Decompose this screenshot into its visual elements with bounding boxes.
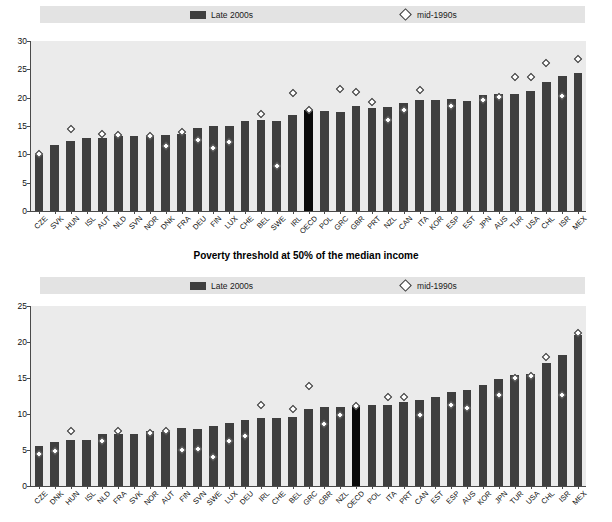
- y-axis-tick-label: 15: [18, 121, 27, 131]
- mid-1990s-diamond-marker-icon: [399, 8, 412, 21]
- bar-deu: [241, 420, 250, 486]
- x-axis-label-nld: NLD: [112, 214, 129, 231]
- x-axis-label-esp: ESP: [445, 214, 462, 231]
- bar-grc: [336, 112, 345, 211]
- x-axis-tick-mark: [372, 486, 373, 489]
- x-axis-label-nor: NOR: [142, 489, 160, 507]
- bar-can: [399, 103, 408, 211]
- mid-1990s-marker-usa: [526, 72, 534, 80]
- x-axis-label-svk: SVK: [48, 214, 65, 231]
- bar-irl: [257, 418, 266, 486]
- bar-isr: [558, 355, 567, 486]
- bar-pol: [368, 405, 377, 486]
- x-axis-label-gbr: GBR: [317, 489, 335, 507]
- y-axis-tick-mark: [27, 306, 31, 307]
- mid-1990s-marker-prt: [399, 392, 407, 400]
- x-axis-tick-mark: [324, 486, 325, 489]
- bar-chl: [542, 82, 551, 211]
- x-axis-tick-mark: [309, 486, 310, 489]
- y-axis-tick-mark: [27, 183, 31, 184]
- y-axis-tick-label: 20: [18, 337, 27, 347]
- x-axis-label-jpn: JPN: [477, 214, 493, 230]
- bar-fra: [177, 134, 186, 211]
- x-axis-tick-mark: [293, 211, 294, 214]
- mid-1990s-marker-mex: [574, 54, 582, 62]
- y-axis-tick-mark: [27, 342, 31, 343]
- x-axis-tick-mark: [102, 211, 103, 214]
- bar-che: [241, 121, 250, 211]
- y-axis-tick-mark: [27, 450, 31, 451]
- x-axis-tick-mark: [150, 211, 151, 214]
- mid-1990s-marker-ita: [384, 393, 392, 401]
- legend-entry-mid-1990s: mid-1990s: [401, 281, 457, 291]
- bar-hun: [66, 440, 75, 486]
- bar-isl: [82, 138, 91, 211]
- y-axis-tick-label: 30: [18, 36, 27, 46]
- bar-bel: [288, 417, 297, 486]
- x-axis-label-nzl: NZL: [382, 214, 398, 230]
- x-axis-tick-mark: [531, 211, 532, 214]
- legend-label-late-2000s: Late 2000s: [211, 10, 253, 20]
- x-axis-tick-mark: [483, 486, 484, 489]
- x-axis-label-gbr: GBR: [349, 214, 367, 232]
- middle-chart-title: Poverty threshold at 50% of the median i…: [0, 250, 612, 261]
- y-axis-tick-mark: [27, 98, 31, 99]
- x-axis-label-hun: HUN: [63, 214, 81, 232]
- legend-entry-mid-1990s: mid-1990s: [401, 10, 457, 20]
- x-axis-tick-mark: [499, 211, 500, 214]
- top-chart-plot-area: 051015202530CZESVKHUNISLAUTNLDSVNNORDNKF…: [30, 41, 586, 212]
- x-axis-label-lux: LUX: [223, 489, 240, 506]
- x-axis-label-isr: ISR: [557, 214, 572, 229]
- x-axis-tick-mark: [578, 486, 579, 489]
- mid-1990s-marker-bel: [257, 110, 265, 118]
- x-axis-tick-mark: [467, 211, 468, 214]
- bar-grc: [304, 409, 313, 486]
- bar-aut: [161, 432, 170, 486]
- bar-usa: [526, 91, 535, 211]
- x-axis-tick-mark: [562, 211, 563, 214]
- bar-svk: [130, 434, 139, 486]
- x-axis-label-nld: NLD: [96, 489, 113, 506]
- bar-isl: [82, 440, 91, 486]
- x-axis-tick-mark: [435, 211, 436, 214]
- x-axis-tick-mark: [562, 486, 563, 489]
- bar-ita: [415, 100, 424, 211]
- x-axis-tick-mark: [229, 211, 230, 214]
- x-axis-tick-mark: [356, 211, 357, 214]
- x-axis-tick-mark: [87, 211, 88, 214]
- mid-1990s-marker-aut: [98, 130, 106, 138]
- x-axis-tick-mark: [102, 486, 103, 489]
- legend-label-late-2000s: Late 2000s: [211, 281, 253, 291]
- x-axis-label-irl: IRL: [257, 489, 272, 504]
- x-axis-label-mex: MEX: [571, 214, 589, 232]
- x-axis-label-aus: AUS: [460, 489, 477, 506]
- x-axis-label-pol: POL: [365, 489, 382, 506]
- mid-1990s-diamond-marker-icon: [399, 279, 412, 292]
- bar-bel: [257, 120, 266, 211]
- bar-kor: [431, 100, 440, 211]
- x-axis-tick-mark: [324, 211, 325, 214]
- x-axis-label-che: CHE: [238, 214, 256, 232]
- x-axis-tick-mark: [483, 211, 484, 214]
- legend-entry-late-2000s: Late 2000s: [190, 10, 253, 20]
- poverty-chart-page: Late 2000s mid-1990s 051015202530CZESVKH…: [0, 0, 612, 522]
- bottom-chart-legend: Late 2000s mid-1990s: [40, 277, 585, 294]
- x-axis-label-jpn: JPN: [493, 489, 509, 505]
- y-axis-tick-mark: [27, 211, 31, 212]
- bar-aus: [494, 94, 503, 211]
- x-axis-label-swe: SWE: [269, 214, 287, 232]
- x-axis-label-chl: CHL: [540, 489, 557, 506]
- x-axis-label-hun: HUN: [63, 489, 81, 507]
- y-axis-tick-label: 10: [18, 409, 27, 419]
- x-axis-tick-mark: [546, 486, 547, 489]
- y-axis-tick-mark: [27, 414, 31, 415]
- x-axis-label-swe: SWE: [205, 489, 223, 507]
- x-axis-tick-mark: [372, 211, 373, 214]
- y-axis-tick-mark: [27, 126, 31, 127]
- x-axis-label-pol: POL: [318, 214, 335, 231]
- x-axis-tick-mark: [213, 486, 214, 489]
- x-axis-tick-mark: [451, 486, 452, 489]
- x-axis-tick-mark: [229, 486, 230, 489]
- bar-jpn: [479, 95, 488, 211]
- bar-prt: [368, 108, 377, 211]
